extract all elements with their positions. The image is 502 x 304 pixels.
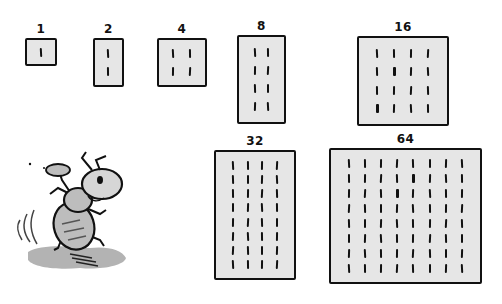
tally-mark — [189, 49, 191, 58]
tally-mark — [445, 264, 448, 273]
box-label-64: 64 — [397, 132, 415, 146]
tally-mark — [412, 174, 414, 183]
tally-mark — [364, 264, 366, 273]
tally-mark — [275, 246, 278, 255]
box-4 — [157, 38, 207, 87]
tally-mark — [266, 102, 269, 111]
tally-mark — [247, 260, 249, 269]
tally-mark — [380, 204, 382, 213]
tally-mark — [445, 249, 447, 258]
tally-mark — [429, 264, 431, 273]
tally-mark — [396, 159, 399, 168]
tally-mark — [444, 174, 447, 183]
tally-mark — [412, 204, 415, 213]
tally-mark — [393, 86, 395, 95]
box-32 — [214, 150, 296, 280]
tally-mark — [267, 84, 269, 93]
tally-mark — [232, 260, 235, 269]
tally-mark — [393, 67, 395, 76]
tally-mark — [40, 47, 43, 56]
tally-mark — [380, 219, 383, 228]
tally-mark — [275, 189, 278, 198]
tally-mark — [107, 49, 110, 58]
tally-mark — [246, 232, 249, 241]
box-label-8: 8 — [257, 19, 266, 33]
tally-mark — [261, 232, 263, 241]
tally-mark — [232, 246, 235, 255]
tally-mark — [380, 174, 383, 183]
box-8 — [237, 35, 286, 124]
tally-mark — [396, 234, 398, 243]
tally-mark — [396, 189, 398, 198]
box-1 — [25, 38, 57, 66]
tally-mark — [428, 234, 431, 243]
tally-mark — [232, 218, 234, 227]
tally-mark — [364, 159, 366, 168]
tally-mark — [412, 264, 415, 273]
ant-illustration-icon — [0, 140, 200, 304]
tally-mark — [348, 249, 351, 258]
box-64 — [329, 148, 482, 284]
tally-mark — [232, 175, 235, 184]
tally-mark — [364, 174, 366, 183]
tally-mark — [364, 204, 367, 213]
tally-mark — [429, 159, 431, 168]
box-label-1: 1 — [37, 22, 46, 36]
tally-mark — [254, 66, 256, 75]
tally-mark — [412, 159, 415, 168]
tally-mark — [461, 264, 464, 273]
tally-mark — [427, 104, 429, 113]
tally-mark — [261, 218, 264, 227]
tally-mark — [445, 234, 448, 243]
tally-mark — [348, 189, 350, 198]
tally-mark — [247, 189, 249, 198]
tally-mark — [412, 234, 414, 243]
tally-mark — [376, 86, 378, 95]
box-16 — [357, 36, 449, 126]
tally-mark — [376, 104, 378, 113]
tally-mark — [254, 102, 257, 111]
box-label-32: 32 — [246, 134, 264, 148]
tally-mark — [261, 260, 263, 269]
tally-mark — [232, 232, 235, 241]
tally-mark — [267, 48, 269, 57]
tally-mark — [445, 204, 447, 213]
box-2 — [93, 38, 124, 87]
tally-mark — [380, 249, 382, 258]
tally-mark — [172, 67, 174, 76]
tally-mark — [412, 189, 415, 198]
tally-mark — [232, 203, 234, 212]
tally-mark — [412, 219, 414, 228]
tally-mark — [412, 249, 415, 258]
tally-mark — [364, 234, 367, 243]
tally-mark — [276, 232, 278, 241]
tally-mark — [348, 159, 351, 168]
tally-mark — [380, 234, 383, 243]
tally-mark — [461, 219, 464, 228]
tally-mark — [276, 203, 278, 212]
tally-mark — [348, 219, 351, 228]
box-label-2: 2 — [104, 22, 113, 36]
tally-mark — [364, 189, 367, 198]
tally-mark — [348, 234, 350, 243]
tally-mark — [461, 174, 463, 183]
tally-mark — [396, 249, 398, 258]
tally-mark — [396, 264, 399, 273]
tally-mark — [364, 249, 367, 258]
tally-mark — [429, 219, 431, 228]
tally-mark — [348, 204, 351, 213]
tally-mark — [348, 174, 350, 183]
tally-mark — [232, 161, 235, 170]
tally-mark — [376, 67, 379, 76]
tally-mark — [396, 204, 399, 213]
tally-mark — [410, 49, 412, 58]
tally-mark — [261, 189, 264, 198]
tally-mark — [232, 189, 234, 198]
tally-mark — [410, 67, 413, 76]
tally-mark — [246, 246, 249, 255]
tally-mark — [275, 175, 278, 184]
tally-mark — [254, 48, 257, 57]
tally-mark — [429, 204, 431, 213]
tally-mark — [172, 49, 175, 58]
tally-mark — [461, 249, 464, 258]
